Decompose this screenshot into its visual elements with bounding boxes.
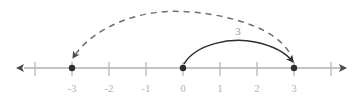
tick-label-two: 2 bbox=[245, 82, 269, 94]
tick-label-one: 1 bbox=[208, 82, 232, 94]
arc-magnitude-label: 3 bbox=[228, 25, 248, 37]
point-zero-dot bbox=[180, 65, 186, 71]
tick-label-three: 3 bbox=[282, 82, 306, 94]
number-line-figure: -3 -2 -1 0 1 2 3 3 bbox=[0, 0, 363, 101]
point-3-dot bbox=[291, 65, 297, 71]
solid-arc bbox=[184, 40, 293, 64]
tick-label-neg2: -2 bbox=[97, 82, 121, 94]
tick-label-neg3: -3 bbox=[60, 82, 84, 94]
dashed-arc bbox=[73, 11, 293, 62]
tick-label-zero: 0 bbox=[171, 82, 195, 94]
tick-label-neg1: -1 bbox=[134, 82, 158, 94]
point-neg3-dot bbox=[69, 65, 75, 71]
